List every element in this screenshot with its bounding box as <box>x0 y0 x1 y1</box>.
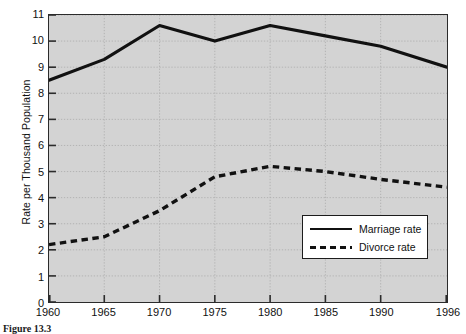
legend-entry-divorce-rate: Divorce rate <box>310 238 421 256</box>
y-tick-label: 8 <box>20 87 44 98</box>
legend-line-dashed-icon <box>310 242 352 252</box>
y-tick-label: 5 <box>20 166 44 177</box>
y-tick-label: 10 <box>20 35 44 46</box>
y-tick-label: 9 <box>20 61 44 72</box>
y-tick-label: 1 <box>20 271 44 282</box>
x-tick-label: 1990 <box>369 306 393 319</box>
x-tick-label: 1980 <box>258 306 282 319</box>
legend-line-solid-icon <box>310 224 352 234</box>
x-tick-label: 1996 <box>436 306 460 319</box>
x-tick-label: 1975 <box>202 306 226 319</box>
y-tick-label: 6 <box>20 140 44 151</box>
plot-area <box>48 14 448 303</box>
y-axis-tick-labels: 01234567891011 <box>20 14 44 303</box>
y-tick-label: 7 <box>20 114 44 125</box>
y-tick-label: 4 <box>20 192 44 203</box>
x-tick-label: 1965 <box>91 306 115 319</box>
y-tick-label: 11 <box>20 9 44 20</box>
legend-label-divorce-rate: Divorce rate <box>359 241 416 253</box>
x-axis-tick-labels: 19601965197019751980198519901996 <box>0 306 466 322</box>
series-line-marriage-rate <box>49 25 447 80</box>
legend-label-marriage-rate: Marriage rate <box>359 223 421 235</box>
y-tick-label: 3 <box>20 219 44 230</box>
x-tick-label: 1960 <box>36 306 60 319</box>
legend-entry-marriage-rate: Marriage rate <box>310 220 421 238</box>
y-tick-label: 2 <box>20 245 44 256</box>
figure-caption: Figure 13.3 <box>3 323 51 334</box>
x-tick-label: 1985 <box>314 306 338 319</box>
x-tick-label: 1970 <box>147 306 171 319</box>
chart-legend: Marriage rate Divorce rate <box>302 215 428 259</box>
